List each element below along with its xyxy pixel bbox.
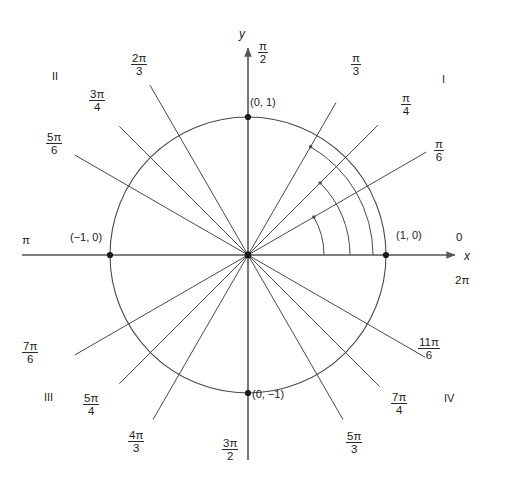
label-angle-3pi-over-4-numerator: 3π: [89, 88, 105, 101]
quadrant-label-iii: III: [44, 392, 53, 403]
arc-to-pi-over-4: [320, 183, 350, 255]
axis-point-0: [383, 252, 389, 258]
label-angle-3pi-over-2-denominator: 2: [222, 450, 238, 462]
unit-circle-figure: y x I II III IV (1, 0) (0, 1) (−1, 0) (0…: [0, 0, 506, 493]
label-angle-pi-over-3-denominator: 3: [351, 65, 361, 77]
ray-angle-pi-over-3: [248, 103, 336, 255]
point-label-1-0: (1, 0): [396, 230, 422, 241]
label-angle-pi-over-6-numerator: π: [434, 138, 444, 151]
ray-angle-pi-over-4: [248, 125, 378, 255]
label-angle-4pi-over-3-numerator: 4π: [128, 429, 144, 442]
label-angle-7pi-over-4: 7π4: [391, 391, 407, 417]
arc-to-pi-over-6-arrowhead: [312, 215, 315, 218]
axis-point-180: [107, 252, 113, 258]
label-angle-pi-over-4: π4: [401, 92, 411, 118]
label-angle-5pi-over-3-denominator: 3: [346, 443, 362, 455]
label-angle-5pi-over-6-denominator: 6: [46, 144, 62, 156]
quadrant-label-i: I: [442, 74, 445, 85]
axis-point-90: [245, 114, 251, 120]
label-angle-5pi-over-6-numerator: 5π: [46, 131, 62, 144]
label-angle-4pi-over-3-denominator: 3: [128, 442, 144, 454]
label-angle-11pi-over-6: 11π6: [418, 336, 440, 362]
origin-point: [245, 252, 252, 259]
label-angle-4pi-over-3: 4π3: [128, 429, 144, 455]
label-angle-11pi-over-6-numerator: 11π: [418, 336, 440, 349]
label-angle-pi-over-3-numerator: π: [351, 52, 361, 65]
point-label-0-1: (0, 1): [250, 97, 276, 108]
label-angle-5pi-over-6: 5π6: [46, 131, 62, 157]
label-angle-pi-over-6: π6: [434, 138, 444, 164]
label-angle-pi-over-2-denominator: 2: [258, 53, 268, 65]
ray-angle-4pi-over-3: [153, 255, 248, 420]
x-axis-label: x: [464, 250, 470, 262]
ray-angle-7pi-over-4: [248, 255, 380, 387]
arc-to-pi-over-3-arrowhead: [309, 145, 312, 148]
label-angle-pi-over-4-denominator: 4: [401, 105, 411, 117]
ray-angle-3pi-over-4: [119, 126, 248, 255]
axis-point-270: [245, 390, 251, 396]
label-angle-7pi-over-6-numerator: 7π: [22, 340, 38, 353]
point-label-0-neg1: (0, −1): [252, 389, 284, 400]
unit-circle-canvas: [0, 0, 506, 493]
arc-to-pi-over-6: [314, 217, 324, 255]
label-angle-2pi-over-3-denominator: 3: [131, 65, 147, 77]
label-angle-7pi-over-4-numerator: 7π: [391, 391, 407, 404]
label-angle-pi-over-2: π2: [258, 40, 268, 66]
angle-label-pi: π: [22, 235, 30, 247]
label-angle-5pi-over-3-numerator: 5π: [346, 430, 362, 443]
ray-angle-2pi-over-3: [150, 85, 248, 255]
point-label-neg1-0: (−1, 0): [70, 232, 102, 243]
ray-angle-5pi-over-4: [119, 255, 248, 384]
label-angle-7pi-over-4-denominator: 4: [391, 404, 407, 416]
label-angle-5pi-over-4-numerator: 5π: [83, 392, 99, 405]
y-axis-label: y: [239, 28, 245, 40]
quadrant-label-iv: IV: [444, 393, 454, 404]
label-angle-pi-over-2-numerator: π: [258, 40, 268, 53]
label-angle-3pi-over-4: 3π4: [89, 88, 105, 114]
label-angle-pi-over-3: π3: [351, 52, 361, 78]
label-angle-5pi-over-3: 5π3: [346, 430, 362, 456]
label-angle-pi-over-6-denominator: 6: [434, 151, 444, 163]
label-angle-5pi-over-4: 5π4: [83, 392, 99, 418]
label-angle-pi-over-4-numerator: π: [401, 92, 411, 105]
label-angle-5pi-over-4-denominator: 4: [83, 405, 99, 417]
label-angle-11pi-over-6-denominator: 6: [418, 349, 440, 361]
ray-angle-7pi-over-6: [75, 255, 248, 355]
ray-angle-11pi-over-6: [248, 255, 426, 358]
label-angle-3pi-over-2-numerator: 3π: [222, 437, 238, 450]
quadrant-label-ii: II: [52, 71, 58, 82]
label-angle-3pi-over-4-denominator: 4: [89, 101, 105, 113]
arc-to-pi-over-4-arrowhead: [318, 181, 321, 184]
label-angle-2pi-over-3-numerator: 2π: [131, 52, 147, 65]
label-angle-2pi-over-3: 2π3: [131, 52, 147, 78]
angle-label-zero: 0: [456, 232, 462, 244]
angle-rays-group: [75, 85, 427, 419]
label-angle-7pi-over-6: 7π6: [22, 340, 38, 366]
angle-label-two-pi: 2π: [455, 275, 469, 287]
label-angle-7pi-over-6-denominator: 6: [22, 353, 38, 365]
label-angle-3pi-over-2: 3π2: [222, 437, 238, 463]
